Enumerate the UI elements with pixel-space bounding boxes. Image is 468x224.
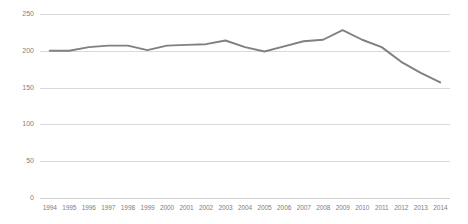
y-tick-label-0: 0 [0, 194, 34, 202]
x-tick-label: 2004 [235, 203, 255, 215]
y-tick-label-100: 100 [0, 120, 34, 128]
x-tick-label: 2006 [274, 203, 294, 215]
line-chart: 0 50 100 150 200 250 1994 1995 1996 1997… [0, 0, 468, 224]
x-tick-label: 1994 [40, 203, 60, 215]
y-tick-label-250: 250 [0, 10, 34, 18]
gridline-0 [40, 198, 450, 199]
x-tick-label: 2011 [372, 203, 392, 215]
x-tick-label: 2008 [313, 203, 333, 215]
x-tick-label: 2000 [157, 203, 177, 215]
y-tick-label-50: 50 [0, 157, 34, 165]
x-axis-labels: 1994 1995 1996 1997 1998 1999 2000 2001 … [40, 203, 450, 215]
y-axis-labels: 0 50 100 150 200 250 [0, 14, 34, 198]
x-tick-label: 1999 [138, 203, 158, 215]
x-tick-label: 2010 [353, 203, 373, 215]
x-tick-label: 1997 [99, 203, 119, 215]
series-line-1 [50, 30, 440, 82]
y-tick-label-200: 200 [0, 47, 34, 55]
x-tick-label: 2013 [411, 203, 431, 215]
x-tick-label: 1995 [60, 203, 80, 215]
plot-area [40, 14, 450, 198]
x-tick-label: 2001 [177, 203, 197, 215]
x-tick-label: 1996 [79, 203, 99, 215]
x-tick-label: 2012 [392, 203, 412, 215]
x-tick-label: 2007 [294, 203, 314, 215]
x-tick-label: 2009 [333, 203, 353, 215]
x-tick-label: 2003 [216, 203, 236, 215]
x-tick-label: 1998 [118, 203, 138, 215]
x-tick-label: 2002 [196, 203, 216, 215]
x-tick-label: 2005 [255, 203, 275, 215]
x-tick-label: 2014 [431, 203, 451, 215]
y-tick-label-150: 150 [0, 84, 34, 92]
series-svg [40, 14, 450, 198]
